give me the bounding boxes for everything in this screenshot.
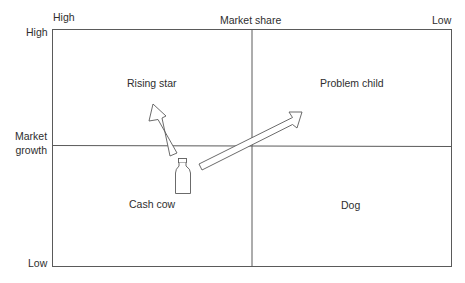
quadrant-rising-star-label: Rising star — [127, 77, 177, 89]
quadrant-dog-label: Dog — [341, 199, 360, 211]
horizontal-divider — [53, 146, 452, 147]
x-axis-low-label: Low — [432, 14, 451, 26]
arrow-up-left-icon — [149, 104, 177, 156]
quadrant-problem-child-label: Problem child — [320, 77, 384, 89]
arrow-up-right-icon — [199, 112, 302, 170]
y-axis-title-line2: growth — [15, 144, 47, 156]
y-axis-high-label: High — [26, 26, 48, 38]
milk-bottle-icon — [176, 159, 191, 194]
y-axis-low-label: Low — [28, 257, 47, 269]
quadrant-cash-cow-label: Cash cow — [129, 198, 175, 210]
x-axis-high-label: High — [53, 11, 75, 23]
y-axis-title-line1: Market — [15, 130, 47, 142]
x-axis-title: Market share — [220, 14, 281, 26]
bcg-matrix-graphic — [0, 0, 465, 283]
